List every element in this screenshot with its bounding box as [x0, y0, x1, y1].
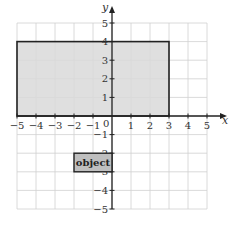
- y-tick-label: 1: [102, 92, 108, 103]
- x-tick-label: 1: [128, 120, 134, 131]
- y-tick-label: 3: [102, 55, 108, 66]
- coordinate-plane: −5−4−3−2−11234554321−1−2−3−4−5 object x …: [0, 0, 234, 227]
- y-axis-label: y: [101, 1, 109, 14]
- y-tick-label: −1: [93, 129, 108, 140]
- y-tick-label: 2: [102, 73, 108, 84]
- x-tick-label: −3: [48, 120, 63, 131]
- y-tick-label: 5: [102, 18, 108, 29]
- large-rectangle: [17, 42, 169, 116]
- x-axis-label: x: [222, 114, 229, 127]
- x-tick-label: 3: [166, 120, 172, 131]
- x-tick-label: −2: [67, 120, 82, 131]
- y-tick-label: −4: [93, 185, 108, 196]
- y-tick-label: −5: [93, 204, 108, 215]
- x-tick-label: −4: [29, 120, 44, 131]
- origin-label: 0: [103, 118, 109, 129]
- x-tick-label: 5: [204, 120, 210, 131]
- object-label: object: [76, 157, 111, 168]
- x-tick-label: 4: [185, 120, 191, 131]
- x-tick-label: 2: [147, 120, 153, 131]
- y-tick-label: 4: [102, 36, 108, 47]
- x-tick-label: −5: [10, 120, 25, 131]
